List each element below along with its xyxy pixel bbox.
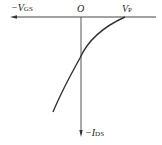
y-axis-label-sub: DS (95, 130, 104, 138)
pinch-off-label: VP (122, 3, 132, 14)
x-axis-label-main: −V (11, 2, 24, 13)
diagram-canvas (0, 0, 162, 145)
y-axis-arrow-icon (79, 130, 82, 137)
origin-label: O (77, 3, 84, 14)
x-axis-label-sub: GS (24, 5, 33, 13)
x-axis-label: −VGS (11, 2, 33, 13)
pinch-off-label-sub: P (128, 6, 132, 14)
y-axis-label-main: −I (85, 127, 95, 138)
x-axis-arrow-icon (10, 15, 17, 18)
y-axis-label: −IDS (85, 127, 104, 138)
transfer-curve (53, 17, 125, 112)
